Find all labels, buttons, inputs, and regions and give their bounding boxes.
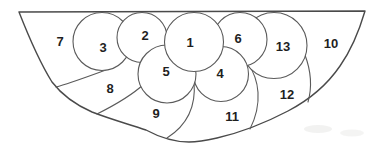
diagram-canvas: 1 2 3 4 5 6 7 8 9 10 11 12 13 xyxy=(0,0,379,152)
region-label-3: 3 xyxy=(99,40,106,55)
scan-smudge xyxy=(340,130,364,137)
region-label-9: 9 xyxy=(152,106,159,121)
region-label-8: 8 xyxy=(106,81,113,96)
circle-region-1 xyxy=(165,13,224,72)
region-label-11: 11 xyxy=(225,109,239,124)
region-label-6: 6 xyxy=(234,31,241,46)
region-label-1: 1 xyxy=(186,35,193,50)
region-label-10: 10 xyxy=(324,36,338,51)
semicircle-diagram: 1 2 3 4 5 6 7 8 9 10 11 12 13 xyxy=(0,0,379,152)
region-label-12: 12 xyxy=(280,87,294,102)
region-label-5: 5 xyxy=(162,64,169,79)
region-label-4: 4 xyxy=(216,66,224,81)
region-label-2: 2 xyxy=(141,28,148,43)
region-label-7: 7 xyxy=(56,34,63,49)
region-label-13: 13 xyxy=(276,39,290,54)
scan-smudge xyxy=(304,125,332,133)
